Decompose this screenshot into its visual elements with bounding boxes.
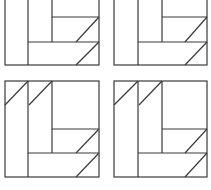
diagonal-line: [76, 153, 99, 177]
figure-top-right: [114, 0, 207, 65]
diagonal-line: [76, 42, 99, 65]
diagonal-line: [185, 129, 207, 153]
diagonal-line: [185, 153, 207, 177]
diagonal-line: [5, 81, 28, 105]
diagonal-line: [114, 81, 138, 105]
diagonal-line: [185, 42, 207, 65]
figure-bottom-right: [114, 81, 207, 177]
diagonal-line: [185, 17, 207, 42]
diagonal-line: [29, 81, 52, 105]
diagonal-line: [139, 81, 162, 105]
diagonal-line: [76, 129, 99, 153]
diagonal-line: [76, 17, 99, 42]
diagram-canvas: [0, 0, 211, 190]
figure-bottom-left: [5, 81, 99, 177]
figure-top-left: [5, 0, 99, 65]
